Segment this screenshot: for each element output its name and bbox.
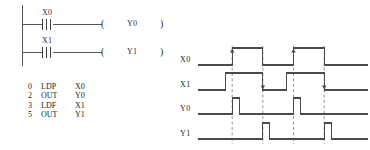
contact-x1 [43,47,51,58]
edge-marker-down [261,85,265,89]
coil-label-y0: Y0 [127,19,137,28]
edge-marker-down [322,85,326,89]
edge-markers [230,49,326,90]
table-row: 0 LDP X0 [28,83,101,92]
table-row: 3 LDF X1 [28,102,101,111]
instruction-list: 0 LDP X0 2 OUT Y0 3 LDF X1 5 OUT Y1 [28,83,158,121]
opcode: OUT [41,111,75,120]
waveform-x0 [198,48,368,65]
coil-open-paren-y0: ( [101,18,105,29]
edge-marker-up [230,49,234,53]
coil-open-paren-y1: ( [101,46,105,57]
waveform-group [198,48,368,139]
waveform-label-y0: Y0 [180,104,191,113]
coil-label-y1: Y1 [127,47,137,56]
timing-diagram-svg [176,40,370,150]
coil-close-paren-y0: ) [160,18,164,29]
waveform-x1 [198,73,368,90]
plc-ladder-timing-figure: X0 X1 ( Y0 ) ( Y1 ) 0 LDP X0 2 OUT Y0 [0,0,370,150]
waveform-label-x1: X1 [180,80,191,89]
ladder-diagram: X0 X1 ( Y0 ) ( Y1 ) [0,0,180,78]
contact-x0 [43,19,51,30]
edge-alignment-dashed-lines [232,46,324,144]
timing-diagram: X0 X1 Y0 Y1 [176,40,370,150]
contact-label-x1: X1 [42,36,52,45]
ladder-diagram-svg [0,0,180,78]
table-row: 2 OUT Y0 [28,92,101,101]
operand: Y1 [75,111,101,120]
edge-marker-up [291,49,295,53]
table-row: 5 OUT Y1 [28,111,101,120]
coil-close-paren-y1: ) [160,46,164,57]
contact-label-x0: X0 [42,8,52,17]
waveform-y0 [198,98,368,114]
waveform-label-y1: Y1 [180,129,191,138]
step-number: 5 [28,111,41,120]
waveform-label-x0: X0 [180,55,191,64]
instruction-list-table: 0 LDP X0 2 OUT Y0 3 LDF X1 5 OUT Y1 [28,83,101,121]
waveform-y1 [198,123,368,139]
